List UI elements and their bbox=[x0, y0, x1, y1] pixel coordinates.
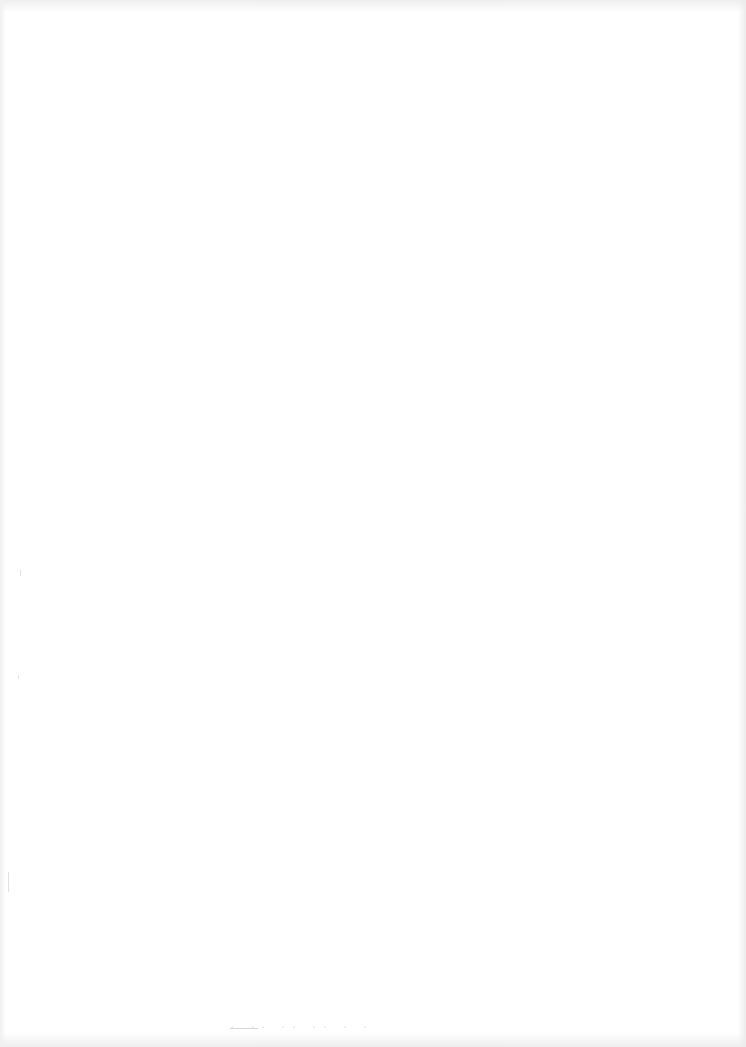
blank-scanned-page: · ·· ·· ·· · · bbox=[0, 0, 746, 1047]
scan-edge-top bbox=[0, 0, 746, 12]
scan-edge-right bbox=[738, 0, 746, 1047]
margin-speck bbox=[20, 570, 21, 576]
margin-speck bbox=[8, 872, 9, 892]
margin-speck bbox=[18, 675, 19, 679]
scan-edge-left bbox=[0, 0, 6, 1047]
bleed-through-text: · ·· ·· ·· · · bbox=[230, 1020, 570, 1038]
